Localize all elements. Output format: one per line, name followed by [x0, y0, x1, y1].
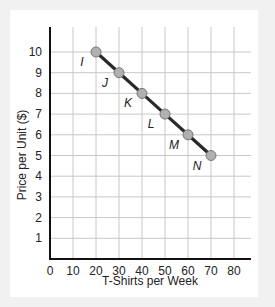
y-tick-label: 10: [29, 45, 43, 59]
y-tick-label: 1: [35, 231, 42, 245]
demand-series: IJKLMN: [80, 47, 216, 173]
data-point-marker: [183, 130, 193, 140]
x-axis-label: T-Shirts per Week: [102, 274, 199, 288]
x-tick-label: 70: [204, 264, 218, 278]
y-tick-label: 3: [35, 190, 42, 204]
data-point-marker: [206, 151, 216, 161]
y-tick-label: 6: [35, 128, 42, 142]
point-label: M: [169, 138, 179, 152]
y-tick-label: 5: [35, 149, 42, 163]
x-tick-label: 20: [89, 264, 103, 278]
demand-curve: [96, 52, 211, 156]
point-label: L: [148, 117, 155, 131]
data-point-marker: [137, 88, 147, 98]
tick-labels: 0102030405060708012345678910: [29, 45, 241, 278]
y-tick-label: 7: [35, 107, 42, 121]
x-tick-label: 10: [66, 264, 80, 278]
y-tick-label: 8: [35, 86, 42, 100]
data-point-marker: [91, 47, 101, 57]
point-label: J: [101, 76, 109, 90]
y-tick-label: 9: [35, 66, 42, 80]
x-tick-label: 80: [227, 264, 241, 278]
y-axis-label: Price per Unit ($): [15, 110, 29, 201]
axes: [49, 27, 251, 260]
data-point-marker: [114, 68, 124, 78]
point-label: K: [124, 96, 133, 110]
x-tick-label: 0: [47, 264, 54, 278]
y-tick-label: 4: [35, 169, 42, 183]
point-label: I: [80, 55, 84, 69]
y-tick-label: 2: [35, 211, 42, 225]
data-point-marker: [160, 109, 170, 119]
point-label: N: [193, 159, 202, 173]
demand-chart: 0102030405060708012345678910 IJKLMN T-Sh…: [0, 0, 275, 307]
